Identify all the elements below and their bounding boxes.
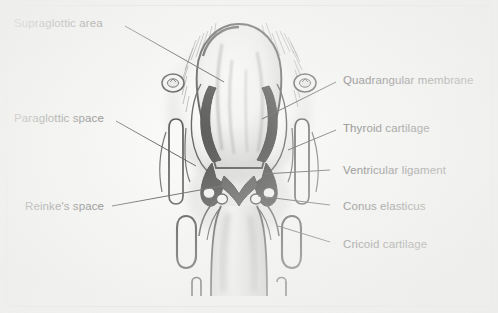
- label-thyroid-cartilage: Thyroid cartilage: [343, 122, 430, 135]
- reinkes-space-right: [251, 194, 262, 204]
- label-ventricular-ligament: Ventricular ligament: [343, 164, 446, 177]
- label-paraglottic-space: Paraglottic space: [14, 112, 104, 125]
- larynx-coronal-section-illustration: [0, 0, 498, 313]
- label-cricoid-cartilage: Cricoid cartilage: [343, 238, 427, 251]
- label-quadrangular-membrane: Quadrangular membrane: [343, 74, 474, 87]
- label-conus-elasticus: Conus elasticus: [343, 200, 426, 213]
- figure-container: Supraglottic area Paraglottic space Rein…: [0, 0, 498, 313]
- superior-cornu-right: [294, 74, 316, 92]
- label-supraglottic-area: Supraglottic area: [14, 17, 103, 30]
- subglottic-trachea: [211, 206, 267, 296]
- thyroid-cartilage-right: [295, 119, 309, 204]
- cricoid-cartilage-right: [282, 216, 301, 268]
- reinkes-space-left: [217, 194, 228, 204]
- label-reinkes-space: Reinke's space: [25, 200, 104, 213]
- superior-cornu-left: [162, 74, 184, 92]
- thyroid-cartilage-left: [169, 119, 183, 204]
- cricoid-cartilage-left: [177, 216, 196, 268]
